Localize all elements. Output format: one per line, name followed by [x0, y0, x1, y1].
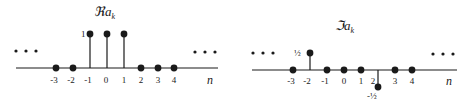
- real-value-label: 1: [81, 29, 86, 39]
- real-tick-labels: -3 -2 -1 0 1 2 3 4: [50, 75, 177, 85]
- imag-positive-value-label: ½: [294, 48, 301, 58]
- stem-plots-diagram: ℜak 1 -3 -2: [0, 0, 471, 102]
- svg-text:-2: -2: [67, 75, 75, 85]
- svg-text:-3: -3: [50, 75, 58, 85]
- imag-negative-value-label: -½: [367, 91, 377, 101]
- svg-text:0: 0: [342, 76, 347, 86]
- imag-tick-labels: -3 -2 -1 0 1 2 3 4: [287, 76, 415, 86]
- real-stems: [90, 34, 124, 68]
- left-ellipsis-icon: [14, 49, 37, 52]
- svg-text:0: 0: [104, 75, 109, 85]
- svg-text:-1: -1: [321, 76, 329, 86]
- svg-text:2: 2: [371, 76, 376, 86]
- imag-plot-title: ℑak: [335, 18, 355, 35]
- svg-text:-3: -3: [287, 76, 295, 86]
- svg-text:4: 4: [410, 76, 415, 86]
- svg-text:2: 2: [139, 75, 144, 85]
- imag-part-plot: ℑak ½ -½ -3 -2 -1 0 1: [251, 18, 457, 101]
- svg-text:1: 1: [359, 76, 364, 86]
- svg-text:4: 4: [172, 75, 177, 85]
- imag-x-axis-label: n: [446, 74, 452, 88]
- real-part-plot: ℜak 1 -3 -2: [14, 4, 218, 87]
- real-stem-markers: [53, 31, 178, 72]
- real-plot-title: ℜak: [94, 4, 116, 21]
- right-ellipsis-icon: [431, 52, 454, 55]
- svg-text:3: 3: [393, 76, 398, 86]
- left-ellipsis-icon: [251, 51, 274, 54]
- svg-text:3: 3: [156, 75, 161, 85]
- svg-text:-1: -1: [84, 75, 92, 85]
- right-ellipsis-icon: [193, 50, 216, 53]
- svg-text:-2: -2: [303, 76, 311, 86]
- svg-text:1: 1: [122, 75, 127, 85]
- real-x-axis-label: n: [207, 73, 213, 87]
